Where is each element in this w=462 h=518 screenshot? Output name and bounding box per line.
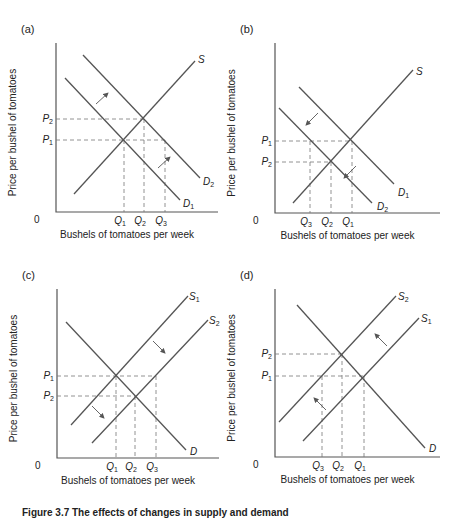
price-label-P1: P1 [43, 370, 54, 382]
curve-S2 [279, 296, 396, 422]
curve-label-D2: D2 [377, 201, 388, 213]
x-axis-title: Bushels of tomatoes per week [61, 475, 196, 486]
x-axis-title: Bushels of tomatoes per week [281, 230, 416, 241]
y-axis-title: Price per bushel of tomatoes [226, 69, 237, 196]
shift-arrow-icon [314, 398, 326, 410]
curve-label-D: D [429, 443, 436, 454]
curve-S [74, 61, 195, 194]
quantity-label-Q2: Q2 [125, 461, 137, 473]
shift-arrow-icon [158, 157, 170, 168]
panel-label: (c) [22, 269, 35, 281]
curve-label-D: D [190, 446, 197, 457]
quantity-label-Q2: Q2 [321, 216, 333, 228]
shift-arrow-icon [92, 406, 104, 418]
curve-label-S2: S2 [209, 315, 220, 327]
quantity-label-Q3: Q3 [312, 460, 324, 472]
y-axis-title: Price per bushel of tomatoes [7, 69, 18, 196]
quantity-label-Q1: Q1 [106, 461, 118, 473]
curve-label-D1: D1 [398, 187, 409, 199]
figure-caption: Figure 3.7 The effects of changes in sup… [22, 507, 289, 518]
y-axis-title: Price per bushel of tomatoes [226, 314, 237, 441]
price-label-P1: P1 [261, 135, 272, 147]
curve-D1 [299, 87, 394, 184]
price-label-P2: P2 [42, 113, 53, 125]
curve-D2 [279, 108, 372, 203]
curve-label-S2: S2 [398, 291, 409, 303]
axes [57, 289, 219, 458]
curve-label-D1: D1 [183, 198, 194, 210]
origin-label: 0 [253, 215, 259, 226]
price-label-P2: P2 [43, 390, 54, 402]
panel-label: (d) [240, 269, 253, 281]
origin-label: 0 [253, 459, 259, 470]
chart-panel-b: (b)0Price per bushel of tomatoesBushels … [226, 23, 440, 241]
price-label-P2: P2 [261, 156, 272, 168]
shift-arrow-icon [375, 334, 387, 346]
x-axis-title: Bushels of tomatoes per week [60, 229, 195, 240]
quantity-label-Q1: Q1 [342, 216, 354, 228]
curve-label-S: S [416, 66, 423, 77]
quantity-label-Q3: Q3 [300, 216, 312, 228]
x-axis-title: Bushels of tomatoes per week [281, 474, 416, 485]
price-label-P1: P1 [42, 134, 53, 146]
y-axis-title: Price per bushel of tomatoes [8, 315, 19, 442]
panel-label: (b) [240, 23, 253, 35]
quantity-label-Q3: Q3 [155, 215, 167, 227]
origin-label: 0 [35, 460, 41, 471]
panel-label: (a) [21, 23, 34, 35]
price-label-P1: P1 [261, 370, 272, 382]
curve-label-S1: S1 [189, 291, 200, 303]
curve-label-S1: S1 [421, 313, 432, 325]
shift-arrow-icon [96, 93, 108, 104]
chart-panel-c: (c)0Price per bushel of tomatoesBushels … [8, 269, 220, 486]
origin-label: 0 [34, 214, 40, 225]
curve-D [66, 322, 186, 450]
price-label-P2: P2 [261, 348, 272, 360]
curve-label-D2: D2 [203, 176, 214, 188]
quantity-label-Q1: Q1 [354, 460, 366, 472]
chart-panel-d: (d)0Price per bushel of tomatoesBushels … [226, 269, 440, 485]
quantity-label-Q3: Q3 [146, 461, 158, 473]
shift-arrow-icon [306, 113, 318, 125]
chart-panel-a: (a)0Price per bushel of tomatoesBushels … [7, 23, 218, 240]
shift-arrow-icon [153, 341, 165, 353]
quantity-label-Q2: Q2 [134, 215, 146, 227]
curve-label-S: S [198, 54, 205, 65]
shift-arrow-icon [344, 166, 356, 178]
quantity-label-Q1: Q1 [114, 215, 126, 227]
quantity-label-Q2: Q2 [332, 460, 344, 472]
